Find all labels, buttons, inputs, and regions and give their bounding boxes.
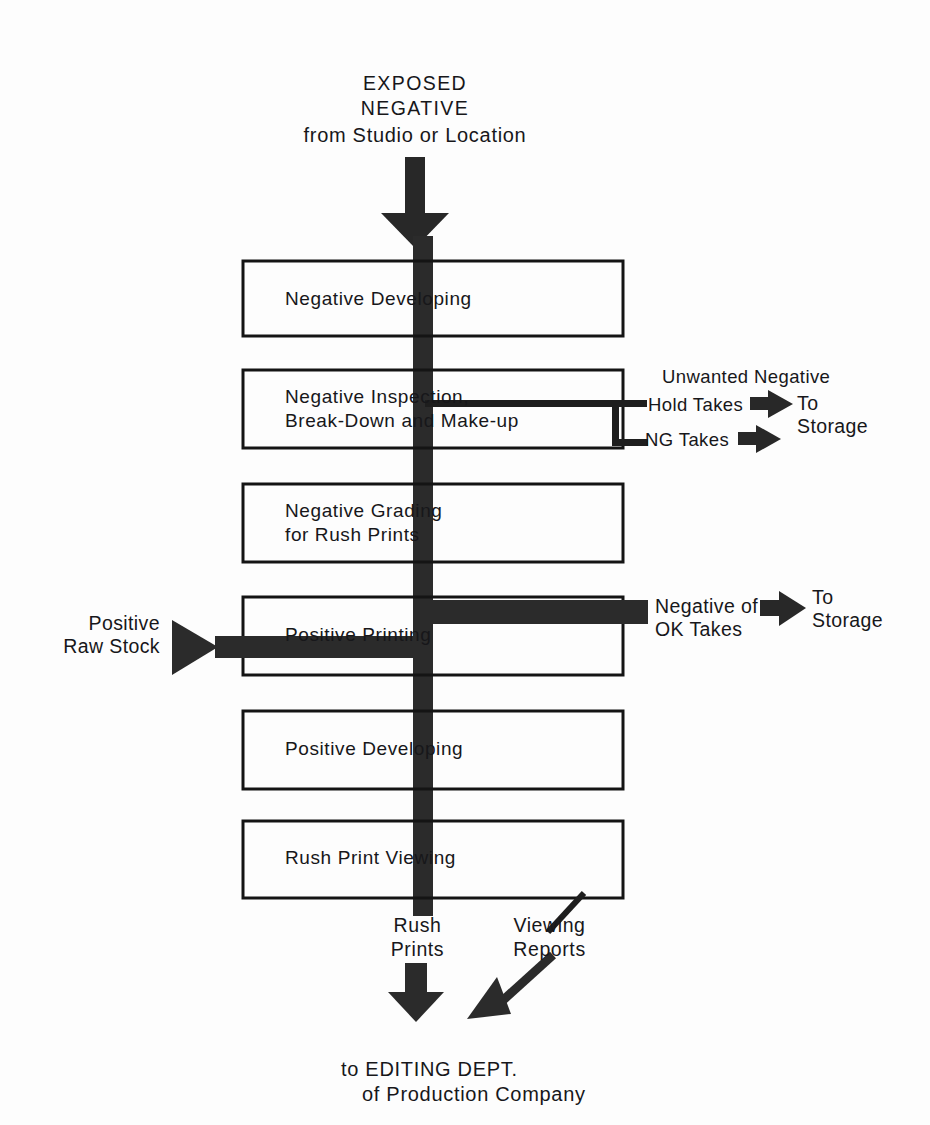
box-label-positive-developing: Positive Developing xyxy=(285,737,463,760)
viewing-reports-arrow-shaft xyxy=(500,955,553,1003)
spine-trunk xyxy=(413,236,433,916)
flowchart-page: EXPOSED NEGATIVE from Studio or Location… xyxy=(0,0,930,1125)
ok-takes-branch-line xyxy=(425,600,648,624)
header-line-2: NEGATIVE xyxy=(315,97,515,121)
box-label-negative-inspection: Negative Inspection, Break-Down and Make… xyxy=(285,385,519,433)
ng-takes-line xyxy=(612,439,648,446)
footer-line-2: of Production Company xyxy=(362,1081,586,1107)
rush-prints-arrowhead xyxy=(388,992,444,1022)
label-ng-takes: NG Takes xyxy=(645,429,729,452)
rush-prints-arrow xyxy=(388,963,444,1022)
label-positive-raw-stock: Positive Raw Stock xyxy=(20,612,160,658)
footer-line-1: to EDITING DEPT. xyxy=(341,1056,518,1082)
viewing-reports-arrowhead xyxy=(467,977,511,1019)
label-viewing-reports: Viewing Reports xyxy=(487,913,612,962)
hold-takes-arrow xyxy=(750,390,793,418)
label-to-storage-1: To Storage xyxy=(797,392,868,438)
top-arrow-shaft xyxy=(405,157,425,217)
negative-ok-takes-arrow xyxy=(760,591,806,626)
label-hold-takes: Hold Takes xyxy=(648,394,743,417)
label-unwanted-negative: Unwanted Negative xyxy=(662,366,830,389)
ng-takes-arrow xyxy=(738,425,781,453)
label-to-storage-2: To Storage xyxy=(812,586,883,632)
header-line-3: from Studio or Location xyxy=(275,123,555,147)
box-label-negative-grading: Negative Grading for Rush Prints xyxy=(285,499,442,547)
header-line-1: EXPOSED xyxy=(315,72,515,96)
box-label-negative-developing: Negative Developing xyxy=(285,287,472,310)
box-label-rush-print-viewing: Rush Print Viewing xyxy=(285,846,456,869)
label-rush-prints: Rush Prints xyxy=(365,913,470,962)
label-negative-of-ok-takes: Negative of OK Takes xyxy=(655,595,758,641)
raw-stock-arrowhead xyxy=(172,620,218,675)
box-label-positive-printing: Positive Printing xyxy=(285,623,431,646)
